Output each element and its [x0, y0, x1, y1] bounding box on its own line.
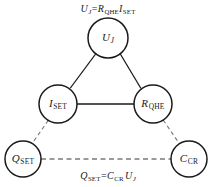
metrological-triangle-diagram: UJ ISET RQHE QSET CCR UJ=RQHEISET QSET=C…: [0, 0, 213, 187]
node-subscript-q-set: SET: [20, 157, 34, 166]
edge-rqhe-ccr: [163, 120, 179, 143]
eq-bottom-term-ccr: CCR: [107, 170, 124, 181]
eq-top-term-rqhe: RQHE: [98, 3, 119, 14]
node-label-r-qhe: RQHE: [141, 98, 164, 111]
node-label-i-set: ISET: [49, 98, 67, 111]
node-label-u-j: UJ: [102, 32, 114, 45]
eq-bottom-sub-set: SET: [87, 175, 100, 182]
edge-uj-iset: [70, 54, 95, 88]
eq-bottom-symbol-c: C: [107, 170, 114, 181]
edge-uj-rqhe: [120, 54, 141, 89]
eq-top-sub-qhe: QHE: [104, 8, 119, 15]
equation-bottom: QSET=CCRUJ: [80, 171, 136, 183]
eq-bottom-term-qset: QSET: [80, 170, 100, 181]
eq-bottom-sub-cr: CR: [114, 175, 124, 182]
node-symbol-q-set: Q: [12, 152, 20, 164]
edge-iset-qset: [33, 120, 49, 142]
eq-bottom-sub-j: J: [132, 175, 136, 183]
equation-top: UJ=RQHEISET: [81, 4, 136, 16]
eq-top-term-iset: ISET: [119, 3, 136, 14]
eq-bottom-term-uj: UJ: [124, 170, 136, 181]
eq-top-term-uj: UJ: [81, 3, 92, 14]
node-label-c-cr: CCR: [180, 153, 198, 166]
edge-group-solid: [70, 54, 141, 104]
node-symbol-r-qhe: R: [141, 97, 148, 109]
node-subscript-r-qhe: QHE: [148, 102, 164, 111]
node-subscript-u-j: J: [110, 36, 114, 45]
node-subscript-i-set: SET: [53, 102, 67, 111]
node-symbol-u-j: U: [102, 31, 110, 43]
eq-top-sub-set: SET: [122, 8, 135, 15]
node-label-q-set: QSET: [12, 153, 34, 166]
edge-group-dashed: [33, 120, 179, 159]
node-subscript-c-cr: CR: [187, 157, 198, 166]
